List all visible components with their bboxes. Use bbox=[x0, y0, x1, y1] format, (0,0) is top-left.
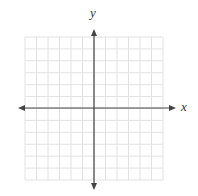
x-axis-label: x bbox=[181, 100, 187, 113]
y-axis-down-arrow-icon bbox=[91, 183, 97, 190]
x-axis-left-arrow-icon bbox=[18, 105, 25, 111]
x-axis-right-arrow-icon bbox=[169, 105, 176, 111]
y-axis-label: y bbox=[90, 6, 96, 19]
coordinate-plane bbox=[0, 0, 198, 196]
axes bbox=[18, 29, 176, 190]
y-axis-up-arrow-icon bbox=[91, 29, 97, 36]
